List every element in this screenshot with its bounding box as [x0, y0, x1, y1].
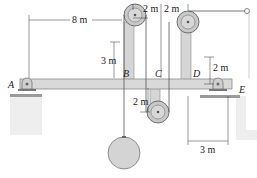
label-C: C — [155, 69, 162, 79]
ground-right-surface — [200, 95, 240, 98]
beam — [20, 79, 232, 89]
pulley-D — [177, 11, 199, 33]
pulley-C — [147, 101, 169, 123]
label-B: B — [123, 69, 129, 79]
label-E: E — [239, 85, 245, 95]
dim-2m-C: 2 m — [133, 97, 148, 107]
dim-3m-E: 3 m — [200, 145, 215, 155]
weight-hook — [122, 136, 126, 138]
pulley-beam-diagram — [0, 0, 257, 178]
dim-2m-BC: 2 m — [143, 4, 158, 14]
label-A: A — [8, 80, 14, 90]
dim-3m-B: 3 m — [101, 56, 116, 66]
dim-2m-D: 2 m — [213, 63, 228, 73]
ground-left-surface — [10, 94, 42, 97]
ground-left — [10, 95, 42, 135]
dim-2m-CD: 2 m — [164, 4, 179, 14]
ground-right — [196, 96, 257, 140]
weight-ball — [108, 137, 140, 169]
dim-8m: 8 m — [72, 15, 87, 25]
stem-D — [181, 30, 191, 84]
label-D: D — [193, 69, 200, 79]
